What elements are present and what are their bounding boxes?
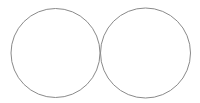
left-circle (11, 9, 100, 98)
diagram-canvas (0, 0, 200, 103)
right-circle (101, 8, 191, 98)
